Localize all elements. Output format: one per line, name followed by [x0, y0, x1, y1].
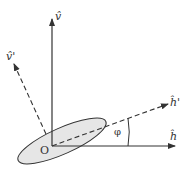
angle-arc [128, 118, 129, 146]
tilted-disk [13, 110, 111, 172]
v-axis-label: v̂ [55, 10, 62, 23]
origin-label: O [40, 144, 49, 157]
rotation-diagram: v̂ ĥ v̂' ĥ' φ O [0, 0, 190, 172]
h-prime-axis-label: ĥ' [170, 95, 180, 109]
angle-label: φ [114, 126, 121, 137]
v-prime-axis-label: v̂' [6, 50, 15, 63]
v-prime-axis [14, 64, 46, 134]
h-axis-label: ĥ [170, 129, 177, 143]
diagram-canvas: v̂ ĥ v̂' ĥ' φ O [0, 0, 190, 172]
